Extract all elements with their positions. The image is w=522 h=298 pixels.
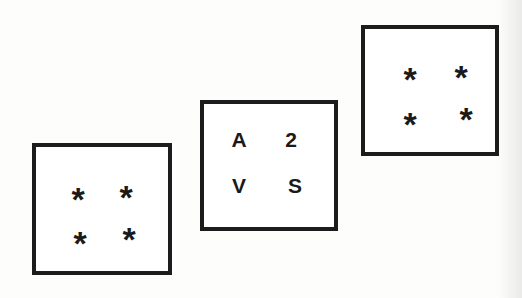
asterisk-icon: * xyxy=(63,170,93,214)
card-middle-characters: A 2 V S xyxy=(200,100,338,231)
asterisk-icon: * xyxy=(65,214,95,258)
asterisk-icon: * xyxy=(114,210,144,254)
card-right-asterisks: * * * * xyxy=(361,25,499,156)
asterisk-icon: * xyxy=(446,48,476,92)
asterisk-icon: * xyxy=(395,95,425,139)
page-edge-shadow xyxy=(498,0,522,298)
asterisk-icon: * xyxy=(451,90,481,134)
character-v: V xyxy=(224,171,254,201)
asterisk-icon: * xyxy=(111,168,141,212)
card-left-asterisks: * * * * xyxy=(32,143,172,275)
asterisk-icon: * xyxy=(395,50,425,94)
character-2: 2 xyxy=(276,125,306,155)
character-s: S xyxy=(280,171,310,201)
character-a: A xyxy=(224,125,254,155)
